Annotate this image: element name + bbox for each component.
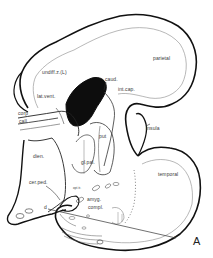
- label-corpus: corp: [18, 111, 28, 116]
- label-diencephalon: dien.: [33, 154, 44, 159]
- label-optic-tract: opt.tr.: [73, 187, 81, 190]
- label-lateral-ventricle: lat.vent.: [37, 94, 55, 99]
- label-internal-capsule: int.cap.: [118, 87, 135, 92]
- label-amygdala: amyg.: [87, 197, 101, 202]
- label-putamen: put: [99, 134, 106, 139]
- label-amygdala-complex: compl.: [88, 205, 103, 210]
- label-globus-pallidus: gl.pal.: [81, 160, 95, 165]
- label-d: d: [44, 205, 47, 210]
- panel-letter: A: [193, 236, 200, 247]
- brain-outline-drawing: [0, 0, 213, 258]
- label-temporal: temporal: [158, 172, 178, 177]
- brain-section-diagram: parietal undiff.z.(L) caud. int.cap. lat…: [0, 0, 213, 258]
- label-callosum: call: [19, 119, 27, 124]
- label-x: x: [174, 235, 176, 239]
- label-caudate: caud.: [105, 77, 118, 82]
- label-undiff-zone: undiff.z.(L): [42, 70, 67, 75]
- label-parietal: parietal: [153, 56, 170, 61]
- label-insula: insula: [146, 126, 160, 131]
- label-cerebral-peduncle: cer.ped.: [29, 180, 48, 185]
